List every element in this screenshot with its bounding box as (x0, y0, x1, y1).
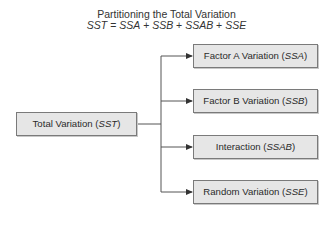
box-label: Factor A Variation ( (204, 50, 285, 61)
random-variation-box: Random Variation (SSE) (193, 180, 318, 204)
box-label: Factor B Variation ( (203, 95, 285, 106)
factor-b-box: Factor B Variation (SSB) (193, 89, 318, 113)
box-symbol: SSE (285, 186, 304, 197)
factor-a-box: Factor A Variation (SSA) (193, 44, 318, 68)
interaction-box: Interaction (SSAB) (193, 135, 318, 159)
box-paren: ) (304, 186, 307, 197)
box-paren: ) (292, 141, 295, 152)
box-symbol: SST (99, 118, 118, 129)
box-paren: ) (304, 50, 307, 61)
box-symbol: SSA (285, 50, 304, 61)
total-variation-box: Total Variation (SST) (16, 112, 137, 136)
box-paren: ) (304, 95, 307, 106)
box-label: Random Variation ( (203, 186, 285, 197)
box-symbol: SSAB (266, 141, 292, 152)
box-paren: ) (117, 118, 120, 129)
box-label: Total Variation ( (33, 118, 99, 129)
box-label: Interaction ( (216, 141, 267, 152)
box-symbol: SSB (285, 95, 304, 106)
